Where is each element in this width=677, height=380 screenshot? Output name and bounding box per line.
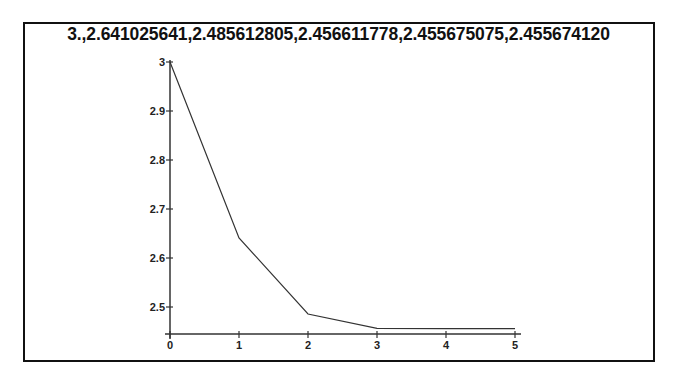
axes [165,60,521,339]
y-tick-label: 2.6 [150,252,165,264]
plot-area: 32.92.82.72.62.5 012345 [0,0,677,380]
x-tick-label: 3 [374,339,380,351]
x-tick-label: 4 [443,339,450,351]
x-tick-label: 1 [236,339,242,351]
y-tick-label: 3 [159,56,165,68]
x-tick-label: 5 [512,339,518,351]
y-tick-label: 2.8 [150,154,165,166]
y-tick-label: 2.5 [150,301,165,313]
series-line [170,62,515,329]
x-tick-label: 0 [167,339,173,351]
y-tick-label: 2.9 [150,105,165,117]
y-tick-label: 2.7 [150,203,165,215]
x-tick-label: 2 [305,339,311,351]
